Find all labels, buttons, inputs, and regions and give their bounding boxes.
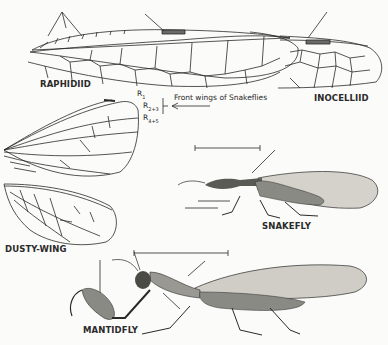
veined-wing (4, 100, 138, 176)
figure-caption: Front wings of Snakeflies (174, 93, 267, 102)
snakefly-label: SNAKEFLY (262, 221, 311, 231)
dusty-wing-label: DUSTY-WING (5, 244, 67, 254)
dusty-wing-illustration (4, 184, 116, 245)
vein-label-r4-5: R4+5 (143, 113, 159, 124)
field-guide-plate: RAPHIDIID Front wings of Snakeflies INOC… (0, 0, 388, 345)
mantidfly-prothorax-arrow (188, 261, 205, 276)
mantidfly-label: MANTIDFLY (83, 325, 138, 335)
mantidfly-coxa-arrow (163, 293, 180, 309)
r-vein-arrow (172, 103, 210, 109)
vein-label-r2-3: R2+3 (143, 101, 159, 112)
veined-wing-stigma (104, 100, 115, 101)
raphidiid-label: RAPHIDIID (40, 79, 91, 89)
illustration-canvas (0, 0, 388, 345)
inocelliid-stigma-arrow (308, 12, 327, 38)
raphidiid-pterostigma (162, 30, 185, 34)
vein-label-r1: R1 (137, 89, 145, 100)
r-vein-bracket (163, 98, 168, 114)
mantidfly-scale-bar (134, 250, 228, 256)
inocelliid-label: INOCELLIID (314, 93, 369, 103)
inocelliid-pterostigma (306, 40, 330, 44)
snakefly-scale-bar (195, 145, 260, 151)
mantidfly-illustration (70, 252, 366, 335)
raphidiid-crossvein-arrows (48, 12, 82, 36)
raphidiid-stigma-arrow (145, 14, 164, 31)
snakefly-illustration (178, 172, 378, 219)
snakefly-neck-arrow (252, 150, 275, 173)
